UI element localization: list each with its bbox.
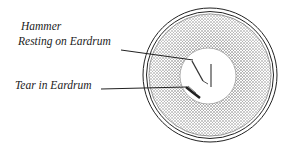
eardrum: [180, 48, 236, 104]
tear-label: Tear in Eardrum: [15, 79, 91, 91]
hammer-label-line2: Resting on Eardrum: [18, 35, 111, 47]
hammer-label-line1: Hammer: [21, 20, 61, 32]
